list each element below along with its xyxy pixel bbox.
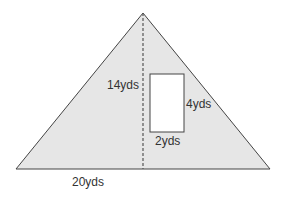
rect-width-label: 2yds xyxy=(155,134,180,148)
base-label: 20yds xyxy=(72,175,104,189)
rect-height-label: 4yds xyxy=(186,97,211,111)
white-rectangle xyxy=(150,74,184,132)
triangle-diagram xyxy=(0,0,284,200)
height-label: 14yds xyxy=(107,78,139,92)
